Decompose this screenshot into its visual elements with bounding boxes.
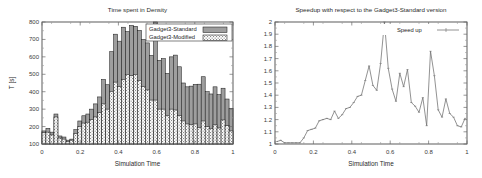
y-tick-label: 100 [29, 141, 40, 147]
x-tick-label: 0 [273, 149, 277, 155]
y-tick-label: 1.2 [264, 117, 273, 123]
y-tick-label: 1.1 [264, 129, 273, 135]
bar-modified [145, 90, 149, 144]
x-axis-label: Simulation Time [115, 160, 161, 167]
time-spent-in-density-svg: Time spent in Density1002003004005006007… [0, 0, 241, 178]
y-tick-label: 1.8 [264, 43, 273, 49]
speedup-svg: Speedup with respect to the Gadget3-Stan… [241, 0, 482, 178]
x-tick-label: 0.6 [386, 149, 395, 155]
bar-modified [153, 100, 157, 144]
bar-modified [50, 135, 54, 144]
legend-box [381, 24, 463, 35]
x-tick-label: 1 [231, 149, 235, 155]
chart-panel-speedup: Speedup with respect to the Gadget3-Stan… [241, 0, 482, 178]
y-tick-label: 1.7 [264, 56, 273, 62]
legend-swatch-standard [203, 27, 227, 33]
plot-frame [275, 22, 467, 144]
y-tick-label: 800 [29, 19, 40, 25]
bar-modified [106, 109, 110, 144]
legend-label-modified: Gadget3-Modified [149, 34, 195, 40]
y-tick-label: 1.9 [264, 31, 273, 37]
bar-modified [213, 125, 217, 144]
x-tick-label: 0.4 [348, 149, 357, 155]
y-tick-label: 500 [29, 71, 40, 77]
y-tick-label: 700 [29, 36, 40, 42]
bar-modified [181, 121, 185, 144]
bar-modified [221, 120, 225, 144]
y-tick-label: 300 [29, 106, 40, 112]
bar-modified [78, 127, 82, 144]
y-tick-label: 1.5 [264, 80, 273, 86]
bar-modified [82, 123, 86, 144]
speedup-line [277, 22, 465, 143]
y-tick-label: 1.6 [264, 68, 273, 74]
bar-modified [197, 127, 201, 144]
bar-modified [126, 74, 130, 144]
bar-modified [217, 128, 221, 144]
x-tick-label: 0.8 [424, 149, 433, 155]
x-axis-label: Simulation Time [348, 160, 394, 167]
chart-title: Speedup with respect to the Gadget3-Stan… [295, 6, 447, 13]
bar-modified [229, 131, 233, 144]
y-tick-label: 1.3 [264, 104, 273, 110]
x-tick-label: 0.2 [309, 149, 318, 155]
bar-modified [137, 80, 141, 144]
x-tick-label: 0.4 [114, 149, 123, 155]
bar-modified [157, 109, 161, 144]
y-tick-label: 200 [29, 124, 40, 130]
bar-modified [114, 82, 118, 144]
bar-modified [173, 110, 177, 144]
bar-modified [165, 116, 169, 144]
bar-modified [193, 124, 197, 144]
bar-modified [58, 138, 62, 144]
y-tick-label: 1 [269, 141, 273, 147]
bar-modified [201, 121, 205, 144]
x-tick-label: 0.6 [152, 149, 161, 155]
bar-modified [134, 74, 138, 144]
x-tick-label: 0.8 [191, 149, 200, 155]
bar-modified [102, 104, 106, 144]
bar-modified [62, 139, 66, 144]
bar-modified [149, 100, 153, 144]
bar-modified [169, 109, 173, 144]
bar-modified [54, 117, 58, 144]
bar-modified [161, 109, 165, 144]
bar-modified [46, 132, 50, 144]
bar-modified [118, 86, 122, 144]
bar-modified [90, 120, 94, 144]
y-tick-label: 400 [29, 89, 40, 95]
legend-swatch-modified [203, 35, 227, 41]
bar-modified [110, 91, 114, 144]
bar-modified [94, 117, 98, 144]
bar-modified [86, 122, 90, 144]
bar-modified [225, 126, 229, 144]
y-tick-label: 2 [269, 19, 273, 25]
bar-modified [177, 116, 181, 144]
bar-modified [122, 80, 126, 144]
bar-modified [98, 113, 102, 144]
x-tick-label: 1 [465, 149, 469, 155]
bar-modified [209, 128, 213, 144]
y-tick-label: 1.4 [264, 92, 273, 98]
legend-label-standard: Gadget3-Standard [149, 26, 197, 32]
y-tick-label: 600 [29, 54, 40, 60]
bar-modified [141, 86, 145, 144]
bar-modified [205, 127, 209, 144]
y-axis-label: T [s] [8, 77, 16, 90]
x-tick-label: 0.2 [76, 149, 85, 155]
chart-panel-time-spent-in-density: Time spent in Density1002003004005006007… [0, 0, 241, 178]
bar-modified [74, 134, 78, 144]
chart-title: Time spent in Density [108, 6, 168, 13]
bar-modified [189, 124, 193, 144]
legend-label-speedup: Speed up [397, 27, 422, 33]
bar-modified [130, 76, 134, 144]
x-tick-label: 0 [40, 149, 44, 155]
bar-modified [185, 124, 189, 144]
bar-modified [42, 133, 46, 144]
figure-container: Time spent in Density1002003004005006007… [0, 0, 482, 178]
